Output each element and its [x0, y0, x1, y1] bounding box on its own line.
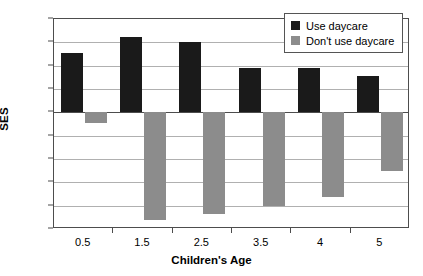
legend-label-dont-use-daycare: Don't use daycare	[306, 35, 394, 47]
gridline	[54, 89, 408, 90]
x-tick-label: 0.5	[75, 236, 90, 248]
x-tick-label: 3.5	[253, 236, 268, 248]
gridline	[54, 182, 408, 183]
x-tick-mark	[172, 228, 173, 233]
ses-daycare-bar-chart: SES 0.40.30.20.10-0.1-0.2-0.3-0.4-0.5 0.…	[0, 0, 423, 276]
gridline	[54, 136, 408, 137]
legend-item: Don't use daycare	[291, 33, 394, 48]
bar	[85, 112, 107, 123]
x-tick-label: 1.5	[134, 236, 149, 248]
gridline	[54, 66, 408, 67]
bar	[179, 42, 201, 112]
zero-line	[54, 112, 408, 113]
x-tick-mark	[112, 228, 113, 233]
x-tick-label: 4	[317, 236, 323, 248]
y-axis-title: SES	[0, 107, 10, 131]
bar	[322, 112, 344, 197]
bar	[144, 112, 166, 219]
legend: Use daycare Don't use daycare	[284, 13, 403, 53]
legend-swatch-use-daycare	[291, 21, 300, 30]
x-tick-mark	[290, 228, 291, 233]
x-tick-mark	[231, 228, 232, 233]
bar	[357, 76, 379, 112]
gridline	[54, 206, 408, 207]
bar	[239, 68, 261, 112]
bar	[61, 53, 83, 113]
bar	[203, 112, 225, 214]
bar	[298, 68, 320, 113]
x-tick-label: 2.5	[194, 236, 209, 248]
x-axis-title: Children's Age	[0, 254, 423, 266]
bar	[381, 112, 403, 170]
bar	[120, 37, 142, 113]
legend-swatch-dont-use-daycare	[291, 36, 300, 45]
legend-label-use-daycare: Use daycare	[306, 20, 368, 32]
x-tick-mark	[350, 228, 351, 233]
bar	[263, 112, 285, 205]
gridline	[54, 159, 408, 160]
legend-item: Use daycare	[291, 18, 394, 33]
x-tick-label: 5	[376, 236, 382, 248]
